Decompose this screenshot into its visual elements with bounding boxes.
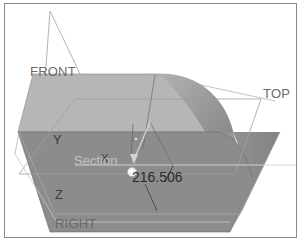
- right-plane-label[interactable]: RIGHT: [55, 216, 96, 231]
- reference-point: [135, 138, 137, 140]
- dimension-value[interactable]: 216.506: [132, 169, 183, 185]
- z-axis-label: Z: [55, 187, 63, 202]
- top-plane-label[interactable]: TOP: [263, 86, 290, 101]
- y-axis-label: Y: [53, 132, 62, 147]
- section-label[interactable]: Section: [74, 153, 117, 168]
- front-plane-label[interactable]: FRONT: [30, 64, 76, 79]
- model-scene[interactable]: [5, 4, 296, 237]
- 3d-model-viewport[interactable]: FRONT TOP RIGHT Y X Z Section 216.506: [4, 3, 297, 238]
